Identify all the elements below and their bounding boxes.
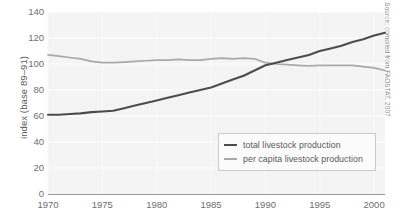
chart-figure: index (base 89–91) Source: compiled from… [0, 0, 407, 224]
legend-item-per-capita: per capita livestock production [224, 152, 369, 166]
legend-swatch-per-capita-icon [224, 158, 237, 160]
y-tick-label: 140 [18, 7, 44, 17]
y-tick-label: 120 [18, 33, 44, 43]
chart-legend: total livestock production per capita li… [218, 133, 376, 171]
x-tick-label: 1980 [137, 199, 177, 210]
legend-label-total: total livestock production [243, 140, 341, 150]
y-tick-label: 80 [18, 85, 44, 95]
x-tick-label: 1995 [300, 199, 340, 210]
y-tick-label: 60 [18, 111, 44, 121]
y-tick-label: 40 [18, 137, 44, 147]
legend-label-per-capita: per capita livestock production [243, 154, 363, 164]
y-tick-label: 20 [18, 163, 44, 173]
legend-item-total: total livestock production [224, 138, 369, 152]
series-line [48, 55, 385, 71]
x-tick-label: 1975 [82, 199, 122, 210]
series-line [48, 33, 385, 115]
x-tick-label: 1985 [191, 199, 231, 210]
x-tick-label: 2000 [354, 199, 394, 210]
x-tick-label: 1990 [245, 199, 285, 210]
legend-swatch-total-icon [224, 144, 237, 146]
y-tick-label: 100 [18, 59, 44, 69]
x-tick-label: 1970 [28, 199, 68, 210]
y-axis-ticks: 020406080100120140 [14, 0, 44, 224]
y-tick-label: 0 [18, 189, 44, 199]
x-axis-line [48, 194, 385, 195]
